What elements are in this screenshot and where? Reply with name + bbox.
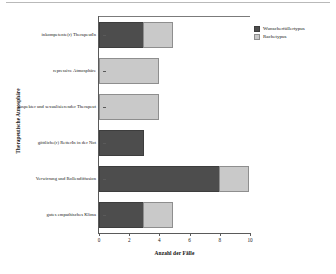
y-axis-tick-label: repressive Atmosphäre xyxy=(10,68,96,74)
y-axis-tick-mark xyxy=(103,71,106,72)
legend-swatch-icon xyxy=(254,34,260,40)
x-axis-tick-mark xyxy=(220,233,221,236)
x-axis-tick-label: 4 xyxy=(151,237,167,243)
x-axis-tick-mark xyxy=(250,233,251,236)
x-axis-tick-label: 2 xyxy=(121,237,137,243)
x-axis-tick-mark xyxy=(190,233,191,236)
x-axis-ticks: 0246810 xyxy=(98,233,251,247)
bar-row xyxy=(99,22,173,48)
y-axis-tick-label: gutes empathisches Klima xyxy=(10,212,96,218)
legend-item: Rachetypus xyxy=(254,34,334,40)
legend-swatch-icon xyxy=(254,26,260,32)
x-axis-title: Anzahl der Fälle xyxy=(98,250,251,256)
bar-row xyxy=(99,166,249,192)
x-axis-tick-label: 0 xyxy=(91,237,107,243)
bar-segment xyxy=(143,202,173,228)
x-axis-tick-label: 8 xyxy=(212,237,228,243)
page-edge-rule xyxy=(6,2,330,3)
y-axis-tick-mark xyxy=(103,143,106,144)
bar-segment xyxy=(99,166,220,192)
chart-figure: inkompetente(r) TherapeutInrepressive At… xyxy=(0,0,336,274)
x-axis-tick-mark xyxy=(159,233,160,236)
bars-layer xyxy=(99,17,250,233)
bar-row xyxy=(99,58,159,84)
bar-segment xyxy=(99,94,159,120)
bar-segment xyxy=(143,22,173,48)
x-axis-tick-mark xyxy=(99,233,100,236)
x-axis-tick-label: 10 xyxy=(242,237,258,243)
bar-segment xyxy=(219,166,249,192)
y-axis-category-labels: inkompetente(r) TherapeutInrepressive At… xyxy=(8,17,96,233)
y-axis-title: Therapeutische Atmosphäre xyxy=(15,56,21,186)
x-axis-tick-mark xyxy=(129,233,130,236)
y-axis-tick-mark xyxy=(103,215,106,216)
legend-label: Wunscherfüllertypus xyxy=(263,26,305,32)
y-axis-tick-label: Verwirrung und Rollendiffusion xyxy=(10,176,96,182)
y-axis-tick-label: göttliche(r) RetterIn in der Not xyxy=(10,140,96,146)
y-axis-tick-label: inkompetente(r) TherapeutIn xyxy=(10,32,96,38)
legend-label: Rachetypus xyxy=(263,34,286,40)
chart-legend: WunscherfüllertypusRachetypus xyxy=(254,26,334,42)
x-axis-tick-label: 6 xyxy=(182,237,198,243)
y-axis-tick-label: suspekter und sexualisierender Therapeut xyxy=(10,104,96,110)
bar-row xyxy=(99,94,159,120)
y-axis-tick-mark xyxy=(103,35,106,36)
legend-item: Wunscherfüllertypus xyxy=(254,26,334,32)
bar-row xyxy=(99,202,173,228)
y-axis-tick-mark xyxy=(103,107,106,108)
bar-segment xyxy=(99,58,159,84)
y-axis-tick-mark xyxy=(103,179,106,180)
